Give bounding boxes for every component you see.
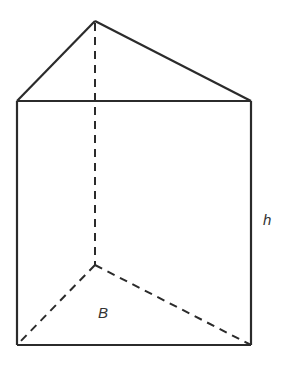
edge-bottom-back-right-hidden (95, 265, 251, 345)
base-label: B (98, 304, 108, 321)
visible-edges (17, 21, 251, 345)
height-label: h (263, 211, 271, 228)
edge-top-apex-left (17, 21, 95, 101)
triangular-prism-diagram: h B (0, 0, 289, 365)
edge-bottom-back-left-hidden (17, 265, 95, 345)
edge-top-apex-right (95, 21, 251, 101)
hidden-edges (17, 23, 251, 345)
